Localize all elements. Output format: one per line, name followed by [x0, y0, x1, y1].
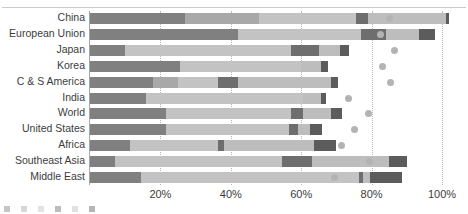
- bar-segment[interactable]: [331, 108, 342, 119]
- bar-segment[interactable]: [259, 13, 356, 24]
- legend-swatch: [55, 206, 61, 212]
- scatter-marker[interactable]: [331, 174, 338, 181]
- legend-swatch: [38, 206, 44, 212]
- bar-segment[interactable]: [146, 93, 303, 104]
- bar-segment[interactable]: [178, 77, 218, 88]
- legend-item[interactable]: [89, 205, 97, 212]
- bar-segment[interactable]: [238, 77, 331, 88]
- scatter-marker[interactable]: [338, 142, 345, 149]
- bar-row[interactable]: Japan: [90, 45, 442, 56]
- scatter-marker[interactable]: [391, 47, 398, 54]
- bar-segment[interactable]: [303, 108, 331, 119]
- scatter-marker[interactable]: [345, 95, 352, 102]
- bar-segment[interactable]: [331, 77, 338, 88]
- bar-row[interactable]: China: [90, 13, 442, 24]
- category-label: World: [58, 106, 85, 119]
- bar-segment[interactable]: [291, 45, 319, 56]
- bar-row[interactable]: Africa: [90, 140, 442, 151]
- x-tick-label: 20%: [149, 188, 171, 200]
- x-tick-label: 40%: [220, 188, 242, 200]
- bar-segment[interactable]: [314, 140, 337, 151]
- bar-segment[interactable]: [363, 172, 370, 183]
- scatter-marker[interactable]: [365, 110, 372, 117]
- bar-segment[interactable]: [386, 29, 419, 40]
- bar-row[interactable]: Korea: [90, 61, 442, 72]
- x-axis-ticks: 20%40%60%80%100%: [90, 188, 442, 204]
- bar-segment[interactable]: [218, 77, 237, 88]
- scatter-marker[interactable]: [379, 63, 386, 70]
- bar-segment[interactable]: [312, 156, 389, 167]
- bar-segment[interactable]: [180, 61, 301, 72]
- chart-container: ChinaEuropean UnionJapanKoreaC & S Ameri…: [0, 0, 468, 214]
- scatter-marker[interactable]: [387, 79, 394, 86]
- bar-segment[interactable]: [321, 93, 326, 104]
- bar-segment[interactable]: [301, 61, 320, 72]
- bar-segment[interactable]: [224, 140, 314, 151]
- category-label: Japan: [56, 43, 85, 56]
- bar-segment[interactable]: [90, 45, 125, 56]
- bar-segment[interactable]: [356, 13, 368, 24]
- x-tick-label: 80%: [361, 188, 383, 200]
- bar-row[interactable]: India: [90, 93, 442, 104]
- category-label: C & S America: [17, 75, 85, 88]
- bar-segment[interactable]: [370, 172, 402, 183]
- bar-row[interactable]: World: [90, 108, 442, 119]
- bar-segment[interactable]: [153, 77, 178, 88]
- bar-segment[interactable]: [166, 124, 289, 135]
- bar-segment[interactable]: [238, 29, 361, 40]
- chart-legend: [4, 205, 334, 214]
- bar-segment[interactable]: [446, 13, 450, 24]
- bar-segment[interactable]: [185, 13, 259, 24]
- legend-item[interactable]: [4, 205, 12, 212]
- category-label: Middle East: [30, 170, 85, 183]
- bar-row[interactable]: United States: [90, 124, 442, 135]
- legend-item[interactable]: [55, 205, 63, 212]
- bar-segment[interactable]: [368, 13, 445, 24]
- bar-segment[interactable]: [115, 156, 282, 167]
- category-label: China: [58, 11, 85, 24]
- category-label: Africa: [58, 138, 85, 151]
- bar-segment[interactable]: [319, 45, 340, 56]
- bar-segment[interactable]: [289, 124, 298, 135]
- bar-segment[interactable]: [310, 124, 322, 135]
- bar-segment[interactable]: [90, 13, 185, 24]
- bar-segment[interactable]: [90, 29, 238, 40]
- bar-segment[interactable]: [166, 108, 291, 119]
- bar-segment[interactable]: [90, 156, 115, 167]
- category-label: India: [62, 91, 85, 104]
- x-tick-label: 60%: [290, 188, 312, 200]
- bar-segment[interactable]: [389, 156, 407, 167]
- legend-swatch: [21, 206, 27, 212]
- bar-row[interactable]: C & S America: [90, 77, 442, 88]
- scatter-marker[interactable]: [351, 126, 358, 133]
- bar-segment[interactable]: [90, 140, 130, 151]
- bar-segment[interactable]: [125, 45, 290, 56]
- bar-segment[interactable]: [90, 172, 141, 183]
- bar-segment[interactable]: [282, 156, 312, 167]
- legend-item[interactable]: [72, 205, 80, 212]
- bar-segment[interactable]: [419, 29, 435, 40]
- legend-swatch: [4, 206, 10, 212]
- bar-segment[interactable]: [303, 93, 321, 104]
- top-divider: [2, 7, 466, 8]
- bar-segment[interactable]: [291, 108, 303, 119]
- category-label: Korea: [57, 59, 85, 72]
- bar-segment[interactable]: [130, 140, 218, 151]
- plot-area: ChinaEuropean UnionJapanKoreaC & S Ameri…: [90, 11, 442, 185]
- bar-segment[interactable]: [90, 77, 153, 88]
- legend-swatch: [89, 206, 95, 212]
- bar-segment[interactable]: [90, 108, 166, 119]
- bar-segment[interactable]: [90, 61, 180, 72]
- bar-segment[interactable]: [90, 124, 166, 135]
- bar-segment[interactable]: [90, 93, 146, 104]
- bar-row[interactable]: Southeast Asia: [90, 156, 442, 167]
- legend-item[interactable]: [21, 205, 29, 212]
- legend-swatch: [72, 206, 78, 212]
- bar-segment[interactable]: [340, 45, 349, 56]
- legend-item[interactable]: [38, 205, 46, 212]
- bar-segment[interactable]: [298, 124, 310, 135]
- bar-row[interactable]: European Union: [90, 29, 442, 40]
- bar-row[interactable]: Middle East: [90, 172, 442, 183]
- bar-segment[interactable]: [141, 172, 359, 183]
- bar-segment[interactable]: [321, 61, 328, 72]
